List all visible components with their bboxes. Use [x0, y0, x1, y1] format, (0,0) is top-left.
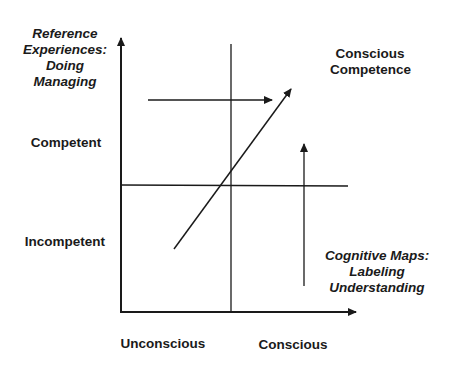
diagonal-arrow: [174, 89, 291, 249]
label-line: Understanding: [325, 280, 429, 296]
conscious-label: Conscious: [255, 337, 331, 353]
label-line: Experiences:: [22, 42, 108, 58]
label-line: Conscious: [330, 46, 410, 62]
incompetent-label: Incompetent: [24, 234, 106, 250]
horizontal-divider: [121, 185, 348, 186]
label-line: Labeling: [325, 264, 429, 280]
label-line: Reference: [22, 26, 108, 42]
conscious-competence-title: Conscious Competence: [330, 46, 410, 78]
label-line: Competence: [330, 62, 410, 78]
cognitive-maps-label: Cognitive Maps: Labeling Understanding: [325, 248, 429, 296]
label-line: Cognitive Maps:: [325, 248, 429, 264]
competent-label: Competent: [28, 135, 104, 151]
unconscious-label: Unconscious: [120, 336, 206, 352]
reference-experiences-label: Reference Experiences: Doing Managing: [22, 26, 108, 90]
label-line: Doing: [22, 58, 108, 74]
label-line: Managing: [22, 74, 108, 90]
